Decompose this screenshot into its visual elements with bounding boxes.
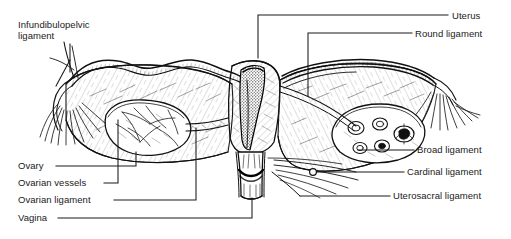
label-vagina: Vagina [18,212,47,223]
label-infundibulopelvic-ligament-line2: ligament [18,30,54,41]
label-uterosacral-ligament: Uterosacral ligament [393,190,481,201]
label-uterus: Uterus [452,10,480,21]
label-ovarian-vessels: Ovarian vessels [18,177,86,188]
anatomy-figure: Infundibulopelvicligament Uterus Round l… [0,0,511,239]
uterine-body [229,61,280,155]
label-ovary: Ovary [18,160,44,171]
right-ovary [332,104,425,163]
vaginal-canal [236,152,265,199]
label-ovarian-ligament: Ovarian ligament [18,194,91,205]
label-round-ligament: Round ligament [415,28,482,39]
label-infundibulopelvic-ligament-line1: Infundibulopelvic [18,19,90,30]
label-infundibulopelvic-ligament: Infundibulopelvicligament [18,19,90,41]
cardinal-ligament-marker [310,169,317,176]
label-cardinal-ligament: Cardinal ligament [407,166,482,177]
label-broad-ligament: Broad ligament [417,144,482,155]
